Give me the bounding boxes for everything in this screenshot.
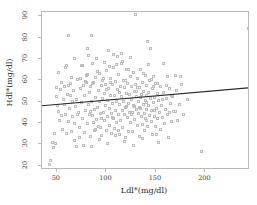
- x-tick-label: 200: [192, 174, 216, 182]
- y-tick-label: 60: [21, 71, 29, 87]
- x-tick-label: 50: [44, 174, 68, 182]
- plot-area-frame: [41, 11, 249, 169]
- x-tick-mark: [56, 169, 57, 172]
- y-tick-label: 30: [21, 135, 29, 151]
- y-tick-label: 20: [21, 157, 29, 173]
- y-axis-label: Hdl*(mg/dl): [5, 45, 14, 121]
- x-tick-mark: [155, 169, 156, 172]
- y-tick-label: 50: [21, 93, 29, 109]
- scatter-plot-figure: Hdl*(mg/dl) Ldl*(mg/dl) 2030405060708090…: [0, 0, 257, 205]
- y-tick-label: 80: [21, 29, 29, 45]
- y-tick-label: 70: [21, 50, 29, 66]
- y-tick-label: 40: [21, 114, 29, 130]
- x-tick-mark: [204, 169, 205, 172]
- x-tick-label: 150: [143, 174, 167, 182]
- x-axis-label: Ldl*(mg/dl): [74, 186, 214, 195]
- regression-line: [42, 12, 248, 168]
- x-tick-label: 100: [93, 174, 117, 182]
- y-tick-label: 90: [21, 7, 29, 23]
- x-tick-mark: [105, 169, 106, 172]
